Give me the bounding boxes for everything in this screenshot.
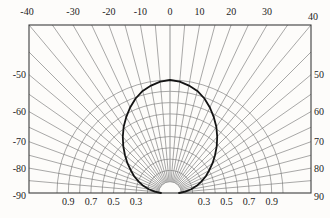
top-axis-tick-label: 40	[308, 11, 318, 22]
top-axis-tick-label: -40	[20, 6, 33, 17]
radial-gridline	[29, 155, 159, 190]
right-axis-tick-label: 80	[314, 163, 324, 174]
radial-gridline	[180, 112, 311, 188]
left-axis-tick-label: -60	[13, 106, 26, 117]
radial-gridline	[29, 52, 162, 185]
top-axis-tick-label: -20	[102, 6, 115, 17]
radial-gridline	[176, 25, 267, 183]
top-axis-tick-label: 30	[262, 6, 272, 17]
bottom-axis-tick-label: 0.7	[85, 196, 98, 207]
polar-radiation-pattern-figure: -40-30-20-10010203040-50-60-70-80-905060…	[0, 0, 330, 218]
top-axis-tick-label: -10	[134, 6, 147, 17]
top-axis-tick-label: 0	[168, 6, 173, 17]
bottom-axis-tick-label: 0.9	[62, 196, 75, 207]
right-axis-tick-label: 50	[314, 69, 324, 80]
radial-gridline	[172, 25, 200, 182]
radial-gridline	[29, 112, 160, 188]
radial-gridline	[178, 52, 311, 185]
top-axis-tick-label: -30	[66, 6, 79, 17]
radiation-pattern-chart: -40-30-20-10010203040-50-60-70-80-905060…	[0, 0, 330, 218]
radial-gridline	[73, 25, 164, 183]
bottom-axis-tick-label: 0.3	[130, 196, 143, 207]
left-axis-tick-label: -70	[13, 136, 26, 147]
top-axis-tick-label: 10	[195, 6, 205, 17]
radial-gridline	[52, 25, 163, 184]
right-axis-tick-label: 60	[314, 106, 324, 117]
radial-gridline	[181, 155, 311, 190]
right-axis-tick-label: 90	[314, 191, 324, 202]
bottom-axis-tick-label: 0.3	[198, 196, 211, 207]
bottom-axis-tick-label: 0.9	[265, 196, 278, 207]
left-axis-tick-label: -50	[13, 69, 26, 80]
top-axis-tick-label: 20	[226, 6, 236, 17]
left-axis-tick-label: -80	[13, 163, 26, 174]
bottom-axis-tick-label: 0.5	[107, 196, 120, 207]
radial-gridline	[176, 25, 287, 184]
right-axis-tick-label: 70	[314, 136, 324, 147]
bottom-axis-tick-label: 0.5	[220, 196, 233, 207]
left-axis-tick-label: -90	[13, 190, 26, 201]
radial-gridline	[140, 25, 168, 182]
bottom-axis-tick-label: 0.7	[243, 196, 256, 207]
